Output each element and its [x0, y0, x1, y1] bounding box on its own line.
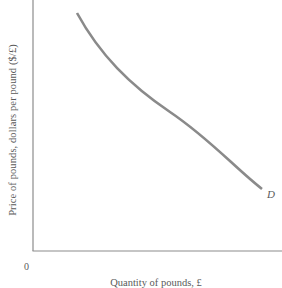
- y-axis-label: Price of pounds, dollars per pound ($/£): [7, 44, 18, 216]
- demand-curve-label: D: [267, 188, 275, 200]
- x-axis-label: Quantity of pounds, £: [110, 277, 202, 288]
- origin-label: 0: [24, 261, 29, 272]
- demand-curve: [77, 13, 262, 189]
